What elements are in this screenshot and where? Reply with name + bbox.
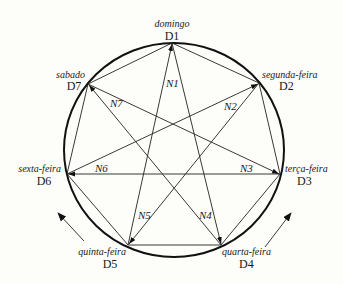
day-code-d2: D2 [279,79,294,93]
edge-d3-d4 [221,174,280,245]
day-name-d4: quarta-feira [222,246,271,257]
star-arrows [67,43,280,245]
day-name-d1: domingo [155,18,190,29]
rotation-arrow-left-icon [58,213,84,241]
edge-d1-d2 [172,43,259,83]
rotation-arrow-right-icon [265,213,291,247]
edge-d5-d6 [67,174,128,245]
label-n5: N5 [137,209,151,221]
label-n2: N2 [223,100,237,112]
label-n7: N7 [109,97,123,109]
day-name-d5: quinta-feira [78,246,126,257]
label-n4: N4 [198,209,212,221]
day-name-d6: sexta-feira [18,163,61,174]
weekday-heptagram-diagram: N1 N2 N3 N4 N5 N6 N7 domingo D1 segunda-… [0,0,343,284]
day-code-d5: D5 [103,257,118,271]
day-code-d6: D6 [37,174,52,188]
outer-circle [64,43,284,257]
arrow-n2 [67,84,258,174]
day-code-d4: D4 [239,257,254,271]
arrow-labels: N1 N2 N3 N4 N5 N6 N7 [94,77,253,221]
day-name-d3: terça-feira [285,163,328,174]
label-n3: N3 [239,162,253,174]
day-code-d3: D3 [297,174,312,188]
arrow-n7 [89,85,221,245]
edge-d7-d1 [88,43,172,84]
heptagon-edges [67,43,280,245]
label-n1: N1 [165,77,179,89]
day-code-d7: D7 [67,79,82,93]
label-n6: N6 [94,162,108,174]
day-code-d1: D1 [165,29,180,43]
